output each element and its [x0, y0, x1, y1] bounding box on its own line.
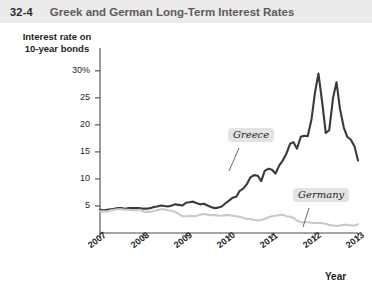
series-group: [100, 74, 358, 226]
y-tick-label: 15: [48, 146, 90, 156]
series-badge-germany: Germany: [293, 188, 349, 202]
figure-header: 32-4 Greek and German Long-Term Interest…: [0, 0, 372, 23]
greece-leader-line: [229, 148, 239, 171]
chart-plot-area: Interest rate on 10-year bonds 30%252015…: [0, 23, 372, 296]
y-tick-label: 30%: [48, 65, 90, 75]
germany-leader-line: [303, 208, 309, 227]
y-tick-label: 20: [48, 119, 90, 129]
x-axis-title: Year: [325, 271, 346, 282]
series-line-germany: [100, 209, 358, 226]
y-tick-label: 10: [48, 173, 90, 183]
y-tick-label: 25: [48, 92, 90, 102]
y-tick-label: 5: [48, 200, 90, 210]
series-badge-greece: Greece: [228, 128, 274, 142]
figure-title: Greek and German Long-Term Interest Rate…: [33, 6, 295, 18]
figure-number: 32-4: [0, 6, 33, 18]
